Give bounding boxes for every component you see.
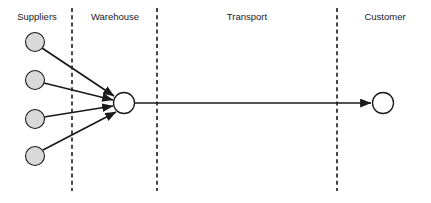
supplier-node-1 <box>26 33 45 52</box>
flow-edges <box>42 48 371 150</box>
edge-supplier-2-to-warehouse <box>44 83 113 100</box>
supplier-node-3 <box>26 110 45 129</box>
zone-label-customer: Customer <box>364 11 405 22</box>
supplier-nodes <box>26 33 45 166</box>
warehouse-node <box>114 93 135 114</box>
edge-supplier-1-to-warehouse <box>42 48 114 96</box>
supplier-node-4 <box>26 147 45 166</box>
zone-label-warehouse: Warehouse <box>91 11 139 22</box>
diagram-canvas: Suppliers Warehouse Transport Customer <box>0 0 431 203</box>
supply-chain-diagram: Suppliers Warehouse Transport Customer <box>0 0 431 203</box>
zone-label-transport: Transport <box>227 11 268 22</box>
customer-node <box>373 93 394 114</box>
edge-supplier-3-to-warehouse <box>44 106 113 117</box>
edge-supplier-4-to-warehouse <box>43 112 116 150</box>
supplier-node-2 <box>26 71 45 90</box>
zone-labels: Suppliers Warehouse Transport Customer <box>17 11 405 22</box>
zone-label-suppliers: Suppliers <box>17 11 57 22</box>
